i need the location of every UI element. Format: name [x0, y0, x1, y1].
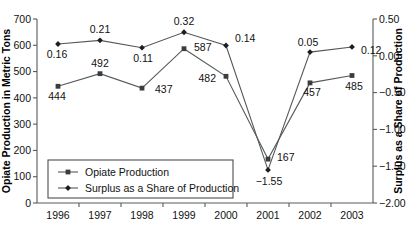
- data-label: 482: [198, 72, 216, 84]
- data-label: 0.14: [235, 32, 256, 44]
- data-label: −1.55: [256, 175, 283, 187]
- y-axis-title: Opiate Production in Metric Tons: [0, 29, 12, 193]
- left-axis-tick-label: 700: [13, 13, 31, 25]
- data-label: 437: [155, 83, 173, 95]
- data-label: 0.05: [298, 36, 319, 48]
- right-axis-tick-label: 0.50: [379, 13, 400, 25]
- right-axis-tick-label: −2.00: [379, 197, 406, 209]
- left-axis-tick-label: 400: [13, 92, 31, 104]
- data-point: [140, 86, 145, 91]
- data-label: 587: [194, 41, 212, 53]
- data-point: [56, 84, 61, 89]
- data-label: 167: [277, 151, 295, 163]
- left-axis-tick-label: 0: [25, 197, 31, 209]
- x-axis-label: 2000: [214, 209, 238, 221]
- data-point: [350, 73, 355, 78]
- left-axis-tick-label: 500: [13, 65, 31, 77]
- x-axis-label: 1996: [46, 209, 70, 221]
- data-point: [182, 46, 187, 51]
- data-point: [266, 157, 271, 162]
- legend-entry-label: Opiate Production: [85, 166, 169, 178]
- data-label: 485: [345, 80, 363, 92]
- data-label: 457: [303, 86, 321, 98]
- data-label: 0.16: [47, 48, 68, 60]
- x-axis-label: 1999: [172, 209, 196, 221]
- chart-canvas: 0100200300400500600700 −2.00−1.50−1.00−0…: [0, 0, 410, 232]
- data-label: 0.11: [133, 52, 153, 64]
- y2-axis-title: Surplus as a Share of Production: [392, 28, 404, 194]
- x-axis-label: 1997: [88, 209, 112, 221]
- data-label: 0.21: [90, 23, 111, 35]
- data-label: 492: [91, 57, 109, 69]
- data-label: 444: [48, 90, 66, 102]
- x-axis-label: 2001: [256, 209, 280, 221]
- legend-entry-label: Surplus as a Share of Production: [85, 182, 239, 194]
- left-axis-tick-label: 300: [13, 118, 31, 130]
- legend-marker-square: [66, 170, 71, 175]
- data-label: 0.12: [361, 44, 382, 56]
- data-point: [308, 80, 313, 85]
- left-axis-tick-label: 100: [13, 170, 31, 182]
- data-point: [98, 71, 103, 76]
- chart-legend: Opiate ProductionSurplus as a Share of P…: [48, 160, 239, 198]
- opiate-production-chart: 0100200300400500600700 −2.00−1.50−1.00−0…: [0, 0, 410, 232]
- data-label: 0.32: [174, 15, 195, 27]
- x-axis-label: 2002: [298, 209, 322, 221]
- left-axis-tick-label: 200: [13, 144, 31, 156]
- x-axis-label: 1998: [130, 209, 154, 221]
- x-axis-label: 2003: [340, 209, 364, 221]
- left-axis-tick-label: 600: [13, 39, 31, 51]
- data-point: [224, 74, 229, 79]
